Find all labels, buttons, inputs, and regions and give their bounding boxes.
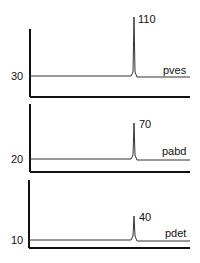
pressure-chart: 30 110 pves 20 70 pabd 10 40 pdet [0, 0, 200, 263]
peak-label: 110 [138, 13, 156, 25]
panel-pves: 30 110 pves [11, 13, 190, 97]
series-label: pves [163, 64, 187, 76]
peak-label: 70 [139, 118, 151, 130]
peak-label: 40 [139, 211, 151, 223]
panel-pdet: 10 40 pdet [11, 180, 190, 248]
baseline-label: 30 [11, 70, 23, 82]
series-label: pabd [162, 145, 186, 157]
series-label: pdet [165, 227, 186, 239]
panel-pabd: 20 70 pabd [11, 104, 190, 172]
baseline-label: 20 [11, 153, 23, 165]
baseline-label: 10 [11, 234, 23, 246]
